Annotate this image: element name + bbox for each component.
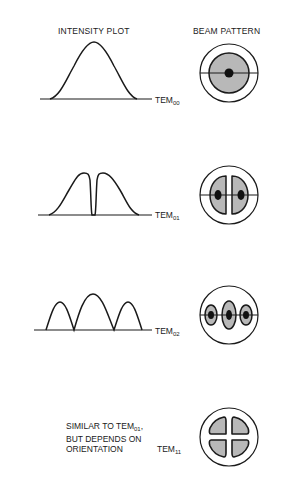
beam-core [225, 69, 234, 78]
beam-lobe-top-left [209, 417, 226, 434]
mode-diagram [0, 0, 290, 483]
mode-label-tem02: TEM02 [155, 326, 180, 337]
beam-lobe-bottom-left [209, 440, 226, 457]
beam-core-center [226, 310, 232, 320]
mode-label-subscript: 02 [173, 331, 180, 337]
note-punct: , [141, 421, 143, 431]
intensity-curve [46, 294, 142, 330]
note-subscript: 01 [134, 426, 141, 432]
beam-pattern-tem02 [200, 286, 258, 344]
beam-pattern-tem11 [200, 408, 258, 466]
intensity-plot-tem01 [38, 173, 152, 215]
outer-circle [200, 408, 258, 466]
beam-core-right [243, 311, 249, 319]
mode-label-prefix: TEM [155, 95, 173, 105]
beam-pattern-tem01 [200, 166, 258, 224]
mode-label-subscript: 11 [175, 449, 181, 455]
beam-lobe-top-right [232, 417, 249, 434]
mode-label-tem11: TEM11 [157, 444, 181, 455]
intensity-plot-tem00 [40, 42, 152, 99]
note-line-3: ORIENTATION [66, 444, 143, 454]
mode-label-prefix: TEM [157, 444, 175, 454]
mode-label-tem01: TEM01 [155, 210, 180, 221]
intensity-plot-tem02 [34, 294, 152, 330]
intensity-curve [50, 42, 137, 99]
mode-label-tem00: TEM00 [155, 95, 180, 106]
mode-label-prefix: TEM [155, 210, 173, 220]
mode-label-prefix: TEM [155, 326, 173, 336]
note-line-1: SIMILAR TO TEM01, [66, 421, 143, 434]
beam-pattern-tem00 [200, 44, 258, 102]
beam-core-right [238, 190, 245, 200]
mode-label-subscript: 01 [173, 215, 180, 221]
beam-core-left [208, 311, 214, 319]
note-text: SIMILAR TO TEM [66, 421, 134, 431]
beam-lobe-bottom-right [232, 440, 249, 457]
beam-core-left [215, 190, 222, 200]
mode-label-subscript: 00 [173, 100, 180, 106]
tem11-note: SIMILAR TO TEM01, BUT DEPENDS ON ORIENTA… [66, 421, 143, 454]
note-line-2: BUT DEPENDS ON [66, 434, 143, 444]
intensity-curve [49, 173, 139, 215]
